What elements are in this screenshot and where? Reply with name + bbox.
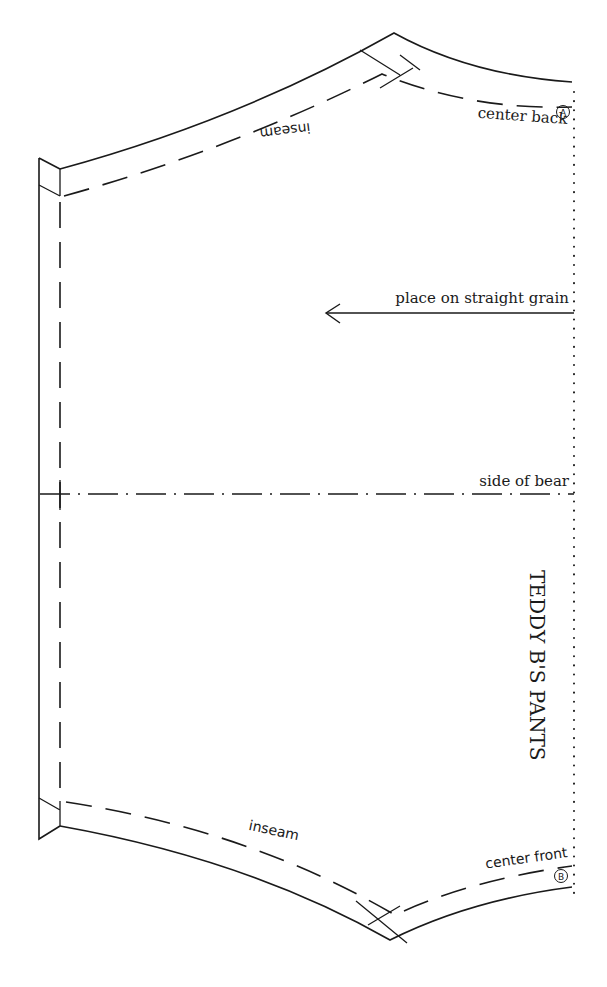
cutting-line-top	[60, 33, 572, 169]
svg-text:A: A	[560, 108, 567, 118]
pattern-title: TEDDY B'S PANTS	[525, 570, 549, 760]
inseam-label-bottom: inseam	[247, 817, 300, 843]
pants-pattern-piece: center back center front inseam inseam p…	[0, 0, 607, 987]
cutting-line-bottom	[60, 826, 572, 940]
svg-text:B: B	[558, 872, 564, 882]
hem-line	[39, 169, 60, 826]
side-of-bear-label: side of bear	[479, 472, 570, 490]
grain-label: place on straight grain	[395, 289, 569, 307]
corner-mark-top	[360, 50, 420, 88]
center-back-label: center back	[477, 104, 569, 128]
cutting-line-left	[39, 158, 60, 839]
inseam-label-top: inseam	[259, 120, 311, 142]
seam-line-top	[64, 74, 572, 196]
center-front-label: center front	[484, 844, 569, 871]
notch-b-icon: B	[555, 870, 568, 883]
